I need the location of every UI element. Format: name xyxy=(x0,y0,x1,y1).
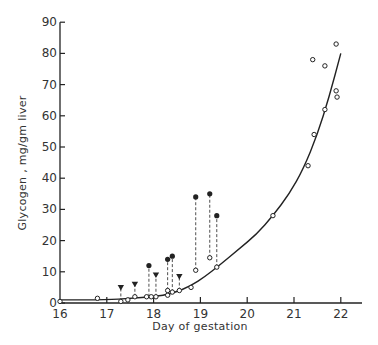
y-axis-title: Glycogen , mg/gm liver xyxy=(16,95,29,230)
open-circle-marker xyxy=(189,285,193,289)
filled-circle-marker xyxy=(193,194,198,199)
x-axis-title: Day of gestation xyxy=(152,320,248,333)
filled-circle-marker xyxy=(165,257,170,262)
y-tick-label: 10 xyxy=(42,265,57,279)
open-circle-marker xyxy=(312,132,316,136)
filled-circle-marker xyxy=(146,263,151,268)
open-circle-marker xyxy=(271,213,275,217)
open-circle-marker xyxy=(334,42,338,46)
open-circle-marker xyxy=(126,298,130,302)
y-tick-label: 90 xyxy=(42,15,57,29)
open-circle-marker xyxy=(311,57,315,61)
triangle-down-marker xyxy=(118,285,124,291)
open-circle-marker xyxy=(335,95,339,99)
filled-circle-marker xyxy=(170,254,175,259)
triangle-down-marker xyxy=(153,272,159,278)
open-circle-marker xyxy=(144,295,148,299)
y-tick-label: 70 xyxy=(42,78,57,92)
open-circle-marker xyxy=(215,265,219,269)
open-circle-marker xyxy=(149,295,153,299)
fitted-curve xyxy=(60,53,341,299)
x-tick-label: 22 xyxy=(333,307,348,321)
open-circle-marker xyxy=(58,299,62,303)
open-circle-marker xyxy=(133,295,137,299)
x-tick-label: 17 xyxy=(99,307,114,321)
open-circle-marker xyxy=(170,290,174,294)
y-tick-label: 50 xyxy=(42,140,57,154)
x-tick-label: 19 xyxy=(193,307,208,321)
y-tick-label: 30 xyxy=(42,202,57,216)
glycogen-chart: 010203040506070809016171819202122 Day of… xyxy=(0,0,378,345)
open-circle-marker xyxy=(165,293,169,297)
open-circle-marker xyxy=(177,288,181,292)
open-circle-marker xyxy=(323,64,327,68)
open-circle-marker xyxy=(334,89,338,93)
x-tick-label: 16 xyxy=(52,307,67,321)
x-tick-label: 21 xyxy=(286,307,301,321)
open-circle-marker xyxy=(119,299,123,303)
triangle-down-marker xyxy=(132,282,138,288)
data-markers xyxy=(58,42,339,304)
y-tick-label: 20 xyxy=(42,234,57,248)
x-tick-label: 20 xyxy=(240,307,255,321)
open-circle-marker xyxy=(306,164,310,168)
filled-circle-marker xyxy=(207,191,212,196)
open-circle-marker xyxy=(194,268,198,272)
open-circle-marker xyxy=(323,107,327,111)
fitted-curve-path xyxy=(60,53,341,299)
y-tick-label: 80 xyxy=(42,46,57,60)
open-circle-marker xyxy=(208,256,212,260)
y-tick-label: 40 xyxy=(42,171,57,185)
filled-circle-marker xyxy=(214,213,219,218)
y-tick-label: 60 xyxy=(42,109,57,123)
triangle-down-marker xyxy=(176,274,182,280)
x-tick-label: 18 xyxy=(146,307,161,321)
open-circle-marker xyxy=(165,288,169,292)
open-circle-marker xyxy=(95,296,99,300)
open-circle-marker xyxy=(154,295,158,299)
